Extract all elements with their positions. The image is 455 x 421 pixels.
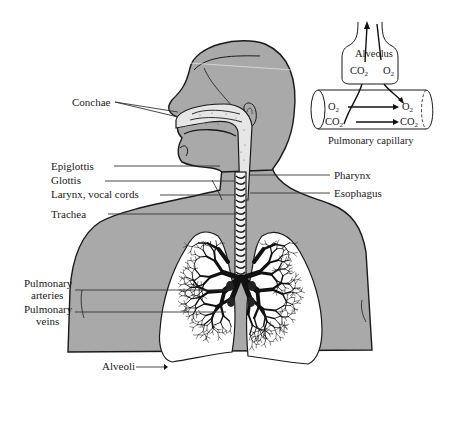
trachea: [235, 172, 246, 277]
cap-co2-left: CO2: [325, 116, 344, 129]
label-pulmonary-arteries-1: Pulmonary: [24, 277, 73, 289]
label-conchae: Conchae: [72, 96, 111, 108]
hilum-vessel: [248, 281, 256, 291]
cap-o2-right: O2: [402, 101, 414, 114]
hilum-vessel: [247, 297, 255, 307]
label-pulmonary-arteries-2: arteries: [31, 289, 63, 301]
respiratory-system-diagram: Conchae Epiglottis Glottis Larynx, vocal…: [0, 0, 455, 421]
gas-exchange-inset: Alveolus CO2 O2 O2 CO2 O2 CO2 Pulmonary …: [311, 21, 433, 146]
label-pulmonary-veins-1: Pulmonary: [24, 303, 73, 315]
label-alveoli: Alveoli: [102, 360, 135, 372]
label-pulmonary-veins-2: veins: [36, 315, 59, 327]
cap-o2-left: O2: [328, 101, 340, 114]
cap-co2-right: CO2: [400, 116, 419, 129]
alveolus-label: Alveolus: [355, 48, 393, 59]
alveoli-arrowhead: [164, 364, 168, 370]
capillary-label: Pulmonary capillary: [328, 135, 414, 146]
label-pharynx: Pharynx: [334, 169, 371, 181]
label-trachea: Trachea: [51, 208, 86, 220]
label-glottis: Glottis: [51, 174, 81, 186]
bronchus-branch: [214, 252, 215, 261]
bronchus-branch: [278, 269, 285, 270]
hilum-vessel: [226, 281, 234, 291]
hilum-vessel: [227, 297, 235, 307]
bronchus-branch: [209, 291, 224, 292]
bronchus-branch: [200, 256, 207, 257]
label-esophagus: Esophagus: [334, 187, 382, 199]
bronchus-branch: [259, 272, 271, 274]
bronchus-branch: [257, 289, 272, 290]
label-epiglottis: Epiglottis: [51, 160, 94, 172]
bronchus-branch: [200, 276, 210, 277]
bronchus-branch: [212, 318, 213, 328]
label-larynx: Larynx, vocal cords: [51, 188, 139, 200]
